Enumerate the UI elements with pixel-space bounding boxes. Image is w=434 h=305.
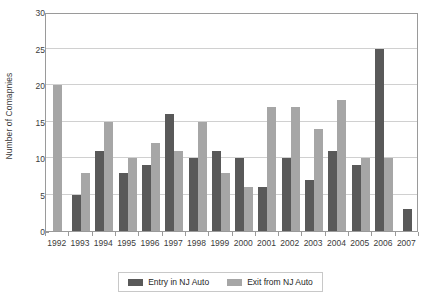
bar bbox=[174, 151, 183, 231]
bar-group bbox=[326, 14, 349, 231]
y-tick-label: 30 bbox=[23, 9, 45, 18]
x-tick-label: 1998 bbox=[187, 238, 206, 248]
y-tick-label: 0 bbox=[23, 228, 45, 237]
y-axis-ticks: 051015202530 bbox=[19, 13, 45, 232]
bar bbox=[119, 173, 128, 231]
y-tick-label: 25 bbox=[23, 45, 45, 54]
x-tick-label: 1993 bbox=[71, 238, 90, 248]
bar-group bbox=[139, 14, 162, 231]
x-tick-label: 2002 bbox=[280, 238, 299, 248]
x-tick-label: 1995 bbox=[117, 238, 136, 248]
bar-group bbox=[209, 14, 232, 231]
legend-label: Entry in NJ Auto bbox=[148, 277, 209, 287]
x-tick-label: 2006 bbox=[374, 238, 393, 248]
legend-swatch-icon bbox=[128, 279, 143, 286]
bar-group bbox=[116, 14, 139, 231]
x-axis-labels: 1992199319941995199619971998199920002001… bbox=[45, 238, 418, 252]
x-tick-mark bbox=[301, 232, 302, 236]
bar bbox=[352, 165, 361, 231]
bar-group bbox=[233, 14, 256, 231]
x-tick-label: 1996 bbox=[140, 238, 159, 248]
bar bbox=[403, 209, 412, 231]
x-tick-label: 1992 bbox=[47, 238, 66, 248]
x-tick-label: 2007 bbox=[397, 238, 416, 248]
x-tick-mark bbox=[418, 232, 419, 236]
y-tick-label: 10 bbox=[23, 155, 45, 164]
bar bbox=[142, 165, 151, 231]
x-tick-mark bbox=[138, 232, 139, 236]
x-tick-mark bbox=[371, 232, 372, 236]
legend-item[interactable]: Exit from NJ Auto bbox=[227, 277, 313, 287]
x-tick-label: 1997 bbox=[164, 238, 183, 248]
bar bbox=[244, 187, 253, 231]
x-tick-label: 1999 bbox=[210, 238, 229, 248]
bar-group bbox=[372, 14, 395, 231]
bar bbox=[267, 107, 276, 231]
x-tick-label: 2005 bbox=[350, 238, 369, 248]
bar-group bbox=[163, 14, 186, 231]
y-tick-label: 5 bbox=[23, 191, 45, 200]
bar bbox=[128, 158, 137, 231]
x-tick-mark bbox=[92, 232, 93, 236]
bar bbox=[189, 158, 198, 231]
x-tick-mark bbox=[45, 232, 46, 236]
bar bbox=[337, 100, 346, 231]
bar bbox=[151, 143, 160, 231]
legend-item[interactable]: Entry in NJ Auto bbox=[128, 277, 209, 287]
y-tick-label: 20 bbox=[23, 82, 45, 91]
bar bbox=[291, 107, 300, 231]
bar bbox=[72, 195, 81, 232]
x-tick-mark bbox=[255, 232, 256, 236]
bar bbox=[95, 151, 104, 231]
chart-legend: Entry in NJ AutoExit from NJ Auto bbox=[118, 272, 323, 292]
y-axis-title-text: Number of Comapnies bbox=[4, 73, 14, 160]
x-tick-label: 2004 bbox=[327, 238, 346, 248]
bar bbox=[81, 173, 90, 231]
x-tick-label: 2003 bbox=[304, 238, 323, 248]
y-tick-label: 15 bbox=[23, 118, 45, 127]
bar-group bbox=[93, 14, 116, 231]
x-tick-mark bbox=[208, 232, 209, 236]
bar bbox=[221, 173, 230, 231]
bar-chart: Number of Comapnies 051015202530 1992199… bbox=[0, 0, 434, 305]
bar bbox=[384, 158, 393, 231]
bar-group bbox=[302, 14, 325, 231]
bar-group bbox=[186, 14, 209, 231]
bar bbox=[53, 85, 62, 231]
legend-swatch-icon bbox=[227, 279, 242, 286]
y-axis-title: Number of Comapnies bbox=[0, 0, 18, 232]
bar bbox=[375, 49, 384, 232]
bar bbox=[235, 158, 244, 231]
bar bbox=[305, 180, 314, 231]
bar bbox=[165, 114, 174, 231]
x-tick-mark bbox=[325, 232, 326, 236]
x-tick-label: 2001 bbox=[257, 238, 276, 248]
x-tick-mark bbox=[278, 232, 279, 236]
bar bbox=[328, 151, 337, 231]
x-tick-mark bbox=[162, 232, 163, 236]
bar bbox=[361, 158, 370, 231]
x-tick-mark bbox=[232, 232, 233, 236]
x-tick-mark bbox=[395, 232, 396, 236]
bar-group bbox=[256, 14, 279, 231]
bar-group bbox=[349, 14, 372, 231]
x-tick-mark bbox=[115, 232, 116, 236]
bar-group bbox=[46, 14, 69, 231]
bar-group bbox=[69, 14, 92, 231]
legend-label: Exit from NJ Auto bbox=[247, 277, 313, 287]
plot-area bbox=[45, 13, 418, 232]
x-tick-label: 1994 bbox=[94, 238, 113, 248]
bar bbox=[212, 151, 221, 231]
x-tick-mark bbox=[68, 232, 69, 236]
x-axis-ticks bbox=[45, 232, 418, 237]
bar bbox=[314, 129, 323, 231]
bar-group bbox=[279, 14, 302, 231]
bar bbox=[198, 122, 207, 232]
bar bbox=[258, 187, 267, 231]
x-tick-mark bbox=[348, 232, 349, 236]
x-tick-mark bbox=[185, 232, 186, 236]
bar bbox=[104, 122, 113, 232]
bar bbox=[282, 158, 291, 231]
x-tick-label: 2000 bbox=[234, 238, 253, 248]
bar-group bbox=[396, 14, 419, 231]
